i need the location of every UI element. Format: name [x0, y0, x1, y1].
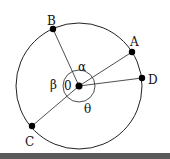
bottom-border [0, 153, 170, 159]
angle-beta: β [50, 78, 57, 92]
label-b: B [47, 14, 56, 28]
radius-oa [79, 52, 132, 86]
angle-alpha: α [78, 60, 86, 74]
point-d [139, 75, 145, 81]
angle-theta: θ [84, 102, 91, 116]
center-point [76, 83, 83, 90]
label-center: 0 [64, 79, 72, 93]
radius-oc [32, 86, 79, 126]
point-c [29, 123, 35, 129]
point-a [129, 49, 135, 55]
label-c: C [25, 135, 34, 149]
label-d: D [148, 73, 158, 87]
geometry-diagram: B A D C 0 α β θ [0, 0, 170, 159]
radius-od [79, 78, 142, 86]
label-a: A [129, 35, 139, 49]
